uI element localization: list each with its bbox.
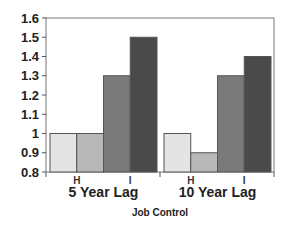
annotation-mark: H bbox=[73, 175, 80, 186]
bar bbox=[218, 76, 245, 172]
y-tick-label: 0.8 bbox=[21, 165, 39, 180]
y-tick-label: 1 bbox=[32, 126, 39, 141]
bar bbox=[164, 134, 191, 173]
annotation-mark: H bbox=[187, 175, 194, 186]
y-tick-label: 0.9 bbox=[21, 145, 39, 160]
y-tick-label: 1.4 bbox=[21, 49, 40, 64]
y-tick-label: 1.2 bbox=[21, 88, 39, 103]
y-tick-label: 1.3 bbox=[21, 68, 39, 83]
annotation-mark: I bbox=[243, 175, 246, 186]
bar-chart: 0.80.911.11.21.31.41.51.65 Year LagHI10 … bbox=[0, 0, 291, 231]
bar bbox=[130, 37, 157, 172]
bar bbox=[244, 57, 271, 173]
bar bbox=[104, 76, 131, 172]
bar bbox=[50, 134, 77, 173]
x-axis-title: Job Control bbox=[132, 207, 188, 218]
bar bbox=[191, 153, 218, 172]
category-label: 10 Year Lag bbox=[179, 184, 257, 200]
y-tick-label: 1.1 bbox=[21, 107, 39, 122]
y-tick-label: 1.6 bbox=[21, 11, 39, 26]
category-label: 5 Year Lag bbox=[69, 184, 139, 200]
y-tick-label: 1.5 bbox=[21, 30, 39, 45]
annotation-mark: I bbox=[129, 175, 132, 186]
bar bbox=[77, 134, 104, 173]
